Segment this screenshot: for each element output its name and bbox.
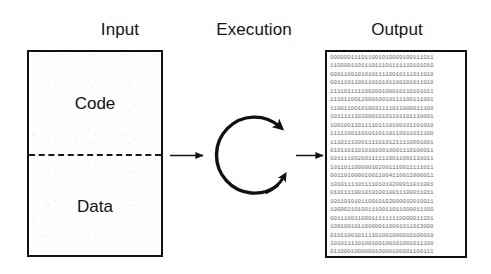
diagram-canvas: Input Execution Output Code Data 0000001… [0,0,491,274]
execution-cycle-icon [217,117,284,193]
code-data-divider [29,154,161,156]
column-label-input: Input [55,20,185,40]
input-box: Code Data [27,50,163,257]
column-label-output: Output [333,20,461,40]
binary-output-text: 000000111011001010009100111011 110000110… [330,54,463,257]
column-label-execution: Execution [190,20,318,40]
data-section-label: Data [29,197,161,217]
code-section-label: Code [29,94,161,114]
output-box: 000000111011001010009100111011 110000110… [325,50,467,258]
